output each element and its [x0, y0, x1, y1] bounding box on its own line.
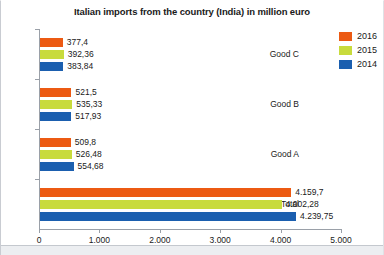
- footer-band: [1, 245, 383, 255]
- bar[interactable]: [40, 62, 63, 71]
- bar-value-label: 4.239,75: [300, 211, 333, 221]
- bar-value-label: 526,48: [76, 149, 102, 159]
- bar-value-label: 4.002,28: [286, 199, 319, 209]
- legend-label: 2015: [357, 46, 377, 55]
- x-tick-label: 4.000: [270, 235, 291, 245]
- x-tick-mark: [341, 229, 342, 233]
- bar[interactable]: [40, 162, 74, 171]
- bar[interactable]: [40, 88, 71, 97]
- chart-legend: 201620152014: [339, 32, 377, 69]
- x-tick-mark: [160, 229, 161, 233]
- bar-value-label: 377,4: [67, 37, 88, 47]
- bar[interactable]: [40, 212, 296, 221]
- x-tick-label: 3.000: [210, 235, 231, 245]
- legend-item[interactable]: 2015: [339, 46, 377, 55]
- y-tick-mark: [35, 29, 39, 30]
- bar-value-label: 554,68: [78, 161, 104, 171]
- bar-value-label: 535,33: [76, 99, 102, 109]
- chart-title: Italian imports from the country (India)…: [1, 6, 383, 17]
- bar-value-label: 517,93: [75, 111, 101, 121]
- plot-area: 01.0002.0003.0004.0005.000 TotalGood AGo…: [39, 29, 341, 229]
- x-tick-label: 1.000: [89, 235, 110, 245]
- bar[interactable]: [40, 38, 63, 47]
- bar-value-label: 383,84: [67, 61, 93, 71]
- x-axis-line: [39, 229, 341, 230]
- category-label: Good B: [270, 99, 299, 109]
- bar[interactable]: [40, 112, 71, 121]
- chart-figure: Italian imports from the country (India)…: [0, 0, 384, 255]
- bar[interactable]: [40, 200, 282, 209]
- x-tick-mark: [281, 229, 282, 233]
- bar-value-label: 4.159,7: [295, 187, 323, 197]
- bar[interactable]: [40, 100, 72, 109]
- x-tick-mark: [99, 229, 100, 233]
- legend-item[interactable]: 2016: [339, 32, 377, 41]
- y-tick-mark: [35, 179, 39, 180]
- category-label: Good A: [271, 149, 299, 159]
- bar-value-label: 521,5: [75, 87, 96, 97]
- bar[interactable]: [40, 138, 71, 147]
- bar[interactable]: [40, 150, 72, 159]
- legend-item[interactable]: 2014: [339, 60, 377, 69]
- bar-value-label: 509,8: [75, 137, 96, 147]
- y-tick-mark: [35, 129, 39, 130]
- x-tick-label: 5.000: [330, 235, 351, 245]
- y-tick-mark: [35, 79, 39, 80]
- bar[interactable]: [40, 50, 64, 59]
- bar[interactable]: [40, 188, 291, 197]
- x-tick-label: 0: [37, 235, 42, 245]
- x-tick-label: 2.000: [149, 235, 170, 245]
- x-tick-mark: [39, 229, 40, 233]
- legend-label: 2016: [357, 32, 377, 41]
- category-label: Good C: [270, 49, 299, 59]
- legend-label: 2014: [357, 60, 377, 69]
- bar-value-label: 392,36: [68, 49, 94, 59]
- x-tick-mark: [220, 229, 221, 233]
